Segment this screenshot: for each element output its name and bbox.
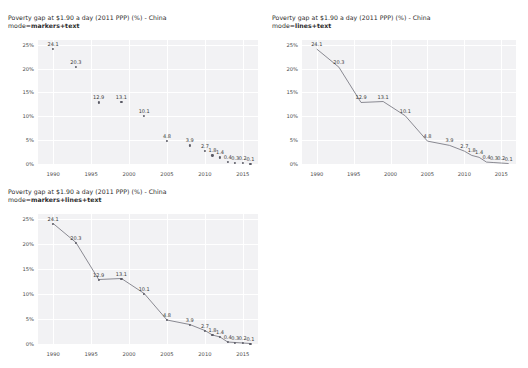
data-point-label: 13.1 [116, 94, 127, 100]
gridline-horizontal [38, 45, 258, 46]
y-axis-tick-label: 5% [8, 137, 34, 143]
plot-markers-lines-text[interactable]: 0%5%10%15%20%25%199019952000200520102015… [8, 208, 264, 364]
panel-title-markers-lines-text: Poverty gap at $1.90 a day (2011 PPP) (%… [8, 188, 264, 205]
panel-title-lines-text: Poverty gap at $1.90 a day (2011 PPP) (%… [272, 14, 522, 31]
data-point-label: 12.9 [93, 94, 104, 100]
data-point-label: 3.9 [186, 137, 194, 143]
data-point-label: 10.1 [400, 108, 411, 114]
x-axis-tick-label: 2010 [198, 171, 211, 177]
x-axis-tick-label: 1995 [84, 171, 97, 177]
chart-panel-lines-text: Poverty gap at $1.90 a day (2011 PPP) (%… [272, 14, 522, 184]
y-axis-tick-label: 25% [8, 42, 34, 48]
y-axis-tick-label: 15% [8, 89, 34, 95]
data-point-label: 12.9 [355, 94, 366, 100]
gridline-horizontal [38, 116, 258, 117]
data-point-label: 20.3 [70, 235, 81, 241]
chart-panel-markers-lines-text: Poverty gap at $1.90 a day (2011 PPP) (%… [8, 188, 264, 364]
gridline-vertical [167, 40, 168, 164]
gridline-vertical [91, 40, 92, 164]
data-point-label: 0.1 [246, 156, 254, 162]
plot-markers-text[interactable]: 0%5%10%15%20%25%199019952000200520102015… [8, 34, 264, 184]
data-point-label: 0.1 [505, 156, 513, 162]
gridline-vertical [243, 40, 244, 164]
x-axis-tick-label: 2015 [236, 171, 249, 177]
gridline-vertical [129, 40, 130, 164]
data-point-label: 0.1 [246, 336, 254, 342]
screenshot-root: Poverty gap at $1.90 a day (2011 PPP) (%… [0, 0, 528, 368]
mode-value: lines+text [295, 22, 331, 29]
data-point-label: 10.1 [139, 286, 150, 292]
gridline-horizontal [38, 140, 258, 141]
data-point-label: 20.3 [333, 59, 344, 65]
data-point-label: 4.8 [163, 312, 171, 318]
data-point-label: 24.1 [48, 216, 59, 222]
x-axis-tick-label: 1990 [47, 171, 60, 177]
y-axis-tick-label: 0% [8, 161, 34, 167]
panel-mode-line: mode=lines+text [272, 22, 522, 30]
x-axis-tick-label: 2005 [160, 171, 173, 177]
data-point-label: 20.3 [70, 59, 81, 65]
data-point-label: 13.1 [378, 94, 389, 100]
panel-mode-line: mode=markers+lines+text [8, 196, 264, 204]
plot-lines-text[interactable]: 0%5%10%15%20%25%199019952000200520102015… [272, 34, 522, 184]
data-point-label: 10.1 [139, 108, 150, 114]
panel-title-markers-text: Poverty gap at $1.90 a day (2011 PPP) (%… [8, 14, 264, 31]
mode-value: markers+text [31, 22, 79, 29]
series-line [272, 34, 522, 184]
data-point-label: 4.8 [423, 133, 431, 139]
data-point-label: 24.1 [311, 41, 322, 47]
mode-label: mode= [8, 22, 31, 29]
data-point-label: 24.1 [48, 41, 59, 47]
panel-title-text: Poverty gap at $1.90 a day (2011 PPP) (%… [272, 14, 522, 22]
panel-title-text: Poverty gap at $1.90 a day (2011 PPP) (%… [8, 188, 264, 196]
data-point-label: 12.9 [93, 272, 104, 278]
panel-mode-line: mode=markers+text [8, 22, 264, 30]
y-axis-tick-label: 10% [8, 113, 34, 119]
x-axis-tick-label: 2000 [122, 171, 135, 177]
mode-label: mode= [8, 196, 31, 203]
data-point-label: 3.9 [186, 317, 194, 323]
mode-label: mode= [272, 22, 295, 29]
data-point-label: 4.8 [163, 133, 171, 139]
y-axis-tick-label: 20% [8, 66, 34, 72]
mode-value: markers+lines+text [31, 196, 101, 203]
chart-panel-markers-text: Poverty gap at $1.90 a day (2011 PPP) (%… [8, 14, 264, 184]
series-line [8, 208, 264, 364]
gridline-horizontal [38, 92, 258, 93]
panel-title-text: Poverty gap at $1.90 a day (2011 PPP) (%… [8, 14, 264, 22]
data-point-label: 3.9 [446, 137, 454, 143]
data-point-label: 13.1 [116, 271, 127, 277]
gridline-vertical [53, 40, 54, 164]
gridline-horizontal [38, 69, 258, 70]
gridline-horizontal [38, 164, 258, 165]
